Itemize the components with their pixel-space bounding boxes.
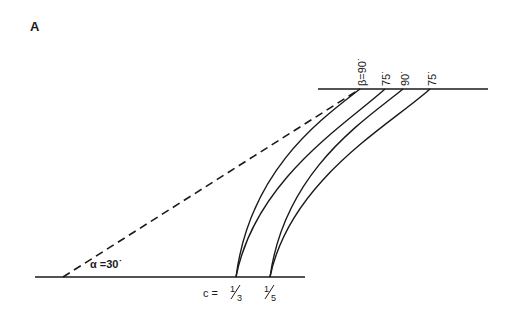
top-label-75-b: 75˙ bbox=[426, 70, 438, 86]
svg-text:3: 3 bbox=[237, 293, 242, 303]
curve-beta90-c1-3 bbox=[236, 89, 360, 277]
diagram-canvas: β=90˙ 75˙ 90˙ 75˙ α =30˙ c = 1 3 1 5 bbox=[0, 0, 514, 325]
c-value-1-3: 1 3 bbox=[230, 284, 242, 303]
curve-beta90-c1-5 bbox=[270, 89, 403, 277]
curve-beta75-c1-3 bbox=[236, 89, 385, 277]
dashed-line-alpha bbox=[63, 89, 360, 277]
svg-text:1: 1 bbox=[230, 284, 235, 294]
top-label-beta90: β=90˙ bbox=[356, 57, 368, 86]
svg-text:5: 5 bbox=[271, 293, 276, 303]
svg-text:1: 1 bbox=[264, 284, 269, 294]
top-label-90: 90˙ bbox=[399, 70, 411, 86]
c-value-1-5: 1 5 bbox=[264, 284, 276, 303]
top-label-75-a: 75˙ bbox=[380, 70, 392, 86]
alpha-label: α =30˙ bbox=[90, 258, 122, 270]
c-label: c = bbox=[203, 287, 218, 299]
